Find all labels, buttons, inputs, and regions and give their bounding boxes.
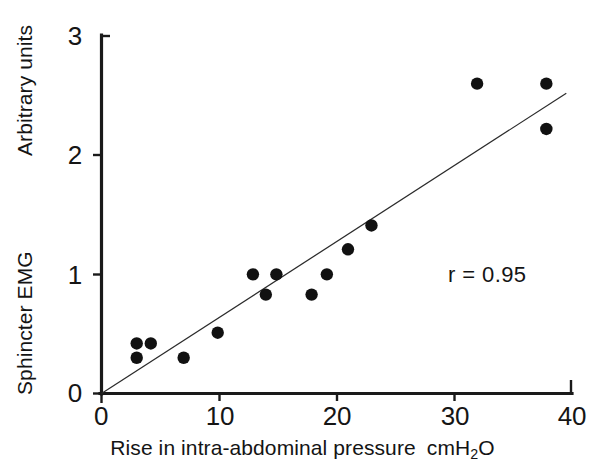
data-point — [177, 352, 189, 364]
x-axis-unit-suffix: O — [478, 436, 494, 459]
x-axis-title-main: Rise in intra-abdominal pressure — [110, 436, 416, 459]
y-tick-label-0: 0 — [68, 378, 82, 409]
correlation-annotation: r = 0.95 — [448, 262, 526, 288]
data-point — [247, 268, 259, 280]
y-tick-label-2: 2 — [68, 140, 82, 171]
x-axis-unit: cmH2O — [427, 436, 495, 459]
x-tick-label-20: 20 — [323, 401, 351, 432]
x-axis-title: Rise in intra-abdominal pressurecmH2O — [0, 436, 605, 460]
x-axis-unit-prefix: cmH — [427, 436, 470, 459]
data-point — [212, 327, 224, 339]
data-point — [540, 123, 552, 135]
data-point — [260, 288, 272, 300]
regression-line — [102, 93, 567, 393]
data-point — [471, 77, 483, 89]
x-axis-unit-subscript: 2 — [470, 446, 478, 462]
data-points-group — [131, 77, 553, 363]
plot-canvas — [0, 0, 605, 475]
y-axis-title-sphincter-emg: Sphincter EMG — [13, 251, 37, 395]
x-tick-label-40: 40 — [558, 401, 586, 432]
y-axis-title-arbitrary-units: Arbitrary units — [13, 25, 37, 156]
scatter-plot-figure: 0 10 20 30 40 0 1 2 3 Arbitrary units Sp… — [0, 0, 605, 475]
axes-group — [100, 35, 572, 394]
x-tick-label-10: 10 — [206, 401, 234, 432]
x-tick-label-0: 0 — [94, 401, 108, 432]
data-point — [342, 243, 354, 255]
x-tick-label-30: 30 — [441, 401, 469, 432]
y-tick-label-1: 1 — [68, 260, 82, 291]
data-point — [365, 219, 377, 231]
y-tick-label-3: 3 — [68, 21, 82, 52]
data-point — [131, 337, 143, 349]
data-point — [145, 337, 157, 349]
data-point — [270, 268, 282, 280]
data-point — [131, 352, 143, 364]
data-point — [540, 77, 552, 89]
data-point — [321, 268, 333, 280]
data-point — [305, 288, 317, 300]
x-ticks-group — [102, 380, 572, 403]
